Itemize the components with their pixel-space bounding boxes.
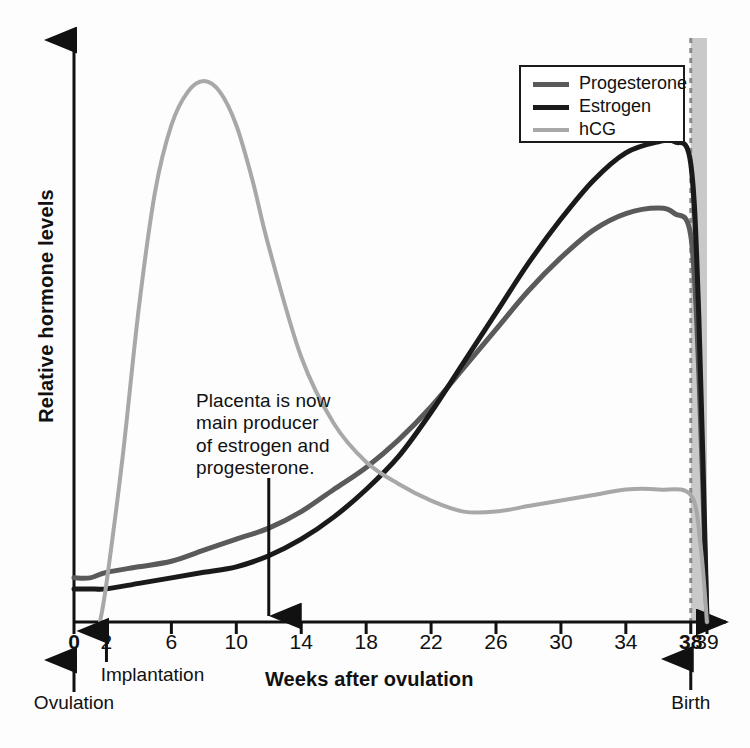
placenta-annotation-text: Placenta is now main producer of estroge… [196, 390, 331, 480]
hormone-levels-chart: Relative hormone levels Weeks after ovul… [0, 0, 750, 748]
x-tick-label: 6 [141, 630, 201, 655]
x-tick-label: 30 [531, 630, 591, 655]
x-tick-label: 22 [401, 630, 461, 655]
x-tick-label: 18 [336, 630, 396, 655]
hormone-curves [74, 81, 707, 622]
x-tick-label: 2 [76, 630, 136, 655]
x-tick-label: 34 [596, 630, 656, 655]
legend-label: hCG [579, 119, 616, 140]
implantation-label: Implantation [52, 664, 252, 686]
y-axis-title: Relative hormone levels [35, 193, 59, 423]
ovulation-label: Ovulation [0, 692, 174, 714]
x-axis-title: Weeks after ovulation [265, 668, 473, 692]
legend-swatch-icon [533, 105, 569, 110]
legend-swatch-icon [533, 82, 569, 87]
x-tick-label: 14 [271, 630, 331, 655]
legend-label: Estrogen [579, 96, 651, 117]
x-tick-label: 10 [206, 630, 266, 655]
curve-estrogen [74, 140, 707, 622]
curve-progesterone [74, 208, 707, 622]
legend-swatch-icon [533, 128, 569, 132]
chart-legend: ProgesteroneEstrogenhCG [519, 65, 685, 143]
x-tick-label: 39 [677, 630, 737, 655]
x-tick-label: 26 [466, 630, 526, 655]
legend-label: Progesterone [579, 73, 687, 94]
birth-label: Birth [591, 692, 750, 714]
